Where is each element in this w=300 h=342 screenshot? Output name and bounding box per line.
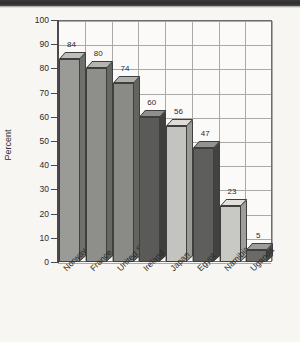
y-axis-tick-label: 70 [40, 88, 49, 98]
y-axis-tick [51, 189, 59, 190]
y-axis-tick [51, 44, 59, 45]
bar-japan[interactable] [166, 118, 187, 262]
y-axis-tick [51, 117, 59, 118]
bar-front-face [113, 83, 134, 262]
bar-france[interactable] [86, 60, 107, 262]
y-axis-title: Percent [3, 129, 13, 160]
bar-value-label: 56 [174, 107, 183, 116]
bar-egypt[interactable] [193, 140, 214, 262]
bar-value-label: 80 [94, 49, 103, 58]
y-axis-tick-label: 50 [40, 136, 49, 146]
y-axis-tick-label: 0 [44, 257, 49, 267]
y-axis-tick [51, 93, 59, 94]
bar-front-face [59, 59, 80, 262]
y-axis-tick [51, 165, 59, 166]
gridline-vertical [272, 21, 273, 261]
bar-ireland[interactable] [139, 109, 160, 262]
y-axis-tick [51, 262, 59, 263]
y-axis-tick-label: 10 [40, 233, 49, 243]
y-axis-tick [51, 214, 59, 215]
bar-front-face [193, 148, 214, 262]
bar-value-label: 5 [256, 231, 260, 240]
y-axis-tick-label: 90 [40, 39, 49, 49]
y-axis-tick-label: 30 [40, 184, 49, 194]
bar-value-label: 47 [201, 129, 210, 138]
y-axis-tick [51, 20, 59, 21]
bar-united-states[interactable] [113, 75, 134, 262]
y-axis-tick [51, 68, 59, 69]
y-axis-tick-label: 80 [40, 63, 49, 73]
bar-front-face [166, 126, 187, 262]
bar-value-label: 74 [120, 64, 129, 73]
bar-front-face [139, 117, 160, 262]
y-axis-tick-label: 40 [40, 160, 49, 170]
y-axis-tick-label: 60 [40, 112, 49, 122]
bar-value-label: 23 [227, 187, 236, 196]
bar-norway[interactable] [59, 51, 80, 262]
bar-value-label: 84 [67, 40, 76, 49]
bar-value-label: 60 [147, 98, 156, 107]
y-axis-tick-label: 20 [40, 209, 49, 219]
y-axis-tick-label: 100 [35, 15, 49, 25]
y-axis-tick [51, 238, 59, 239]
y-axis-tick [51, 141, 59, 142]
bar-front-face [86, 68, 107, 262]
bar-chart: 1009080706050403020100 Percent 84Norway8… [0, 0, 300, 342]
